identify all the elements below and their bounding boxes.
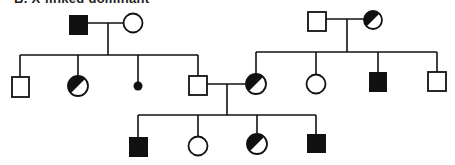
- unaffected-female-symbol: [189, 137, 208, 156]
- affected-male-symbol: [369, 72, 387, 92]
- carrier-female-symbol: [243, 130, 271, 158]
- unaffected-female-symbol: [124, 14, 143, 33]
- unaffected-male-symbol: [308, 12, 326, 31]
- affected-male-symbol: [307, 134, 326, 153]
- unaffected-male-symbol: [428, 72, 446, 91]
- pedigree-chart: [0, 0, 455, 165]
- carrier-female-symbol: [242, 70, 270, 98]
- affected-male-symbol: [129, 137, 148, 157]
- unaffected-male-symbol: [189, 76, 207, 95]
- unaffected-male-symbol: [12, 77, 29, 97]
- affected-male-symbol: [69, 15, 88, 35]
- carrier-female-symbol: [360, 7, 386, 33]
- carrier-female-symbol: [64, 72, 92, 100]
- infant-death-symbol: [134, 82, 143, 91]
- unaffected-female-symbol: [307, 75, 326, 94]
